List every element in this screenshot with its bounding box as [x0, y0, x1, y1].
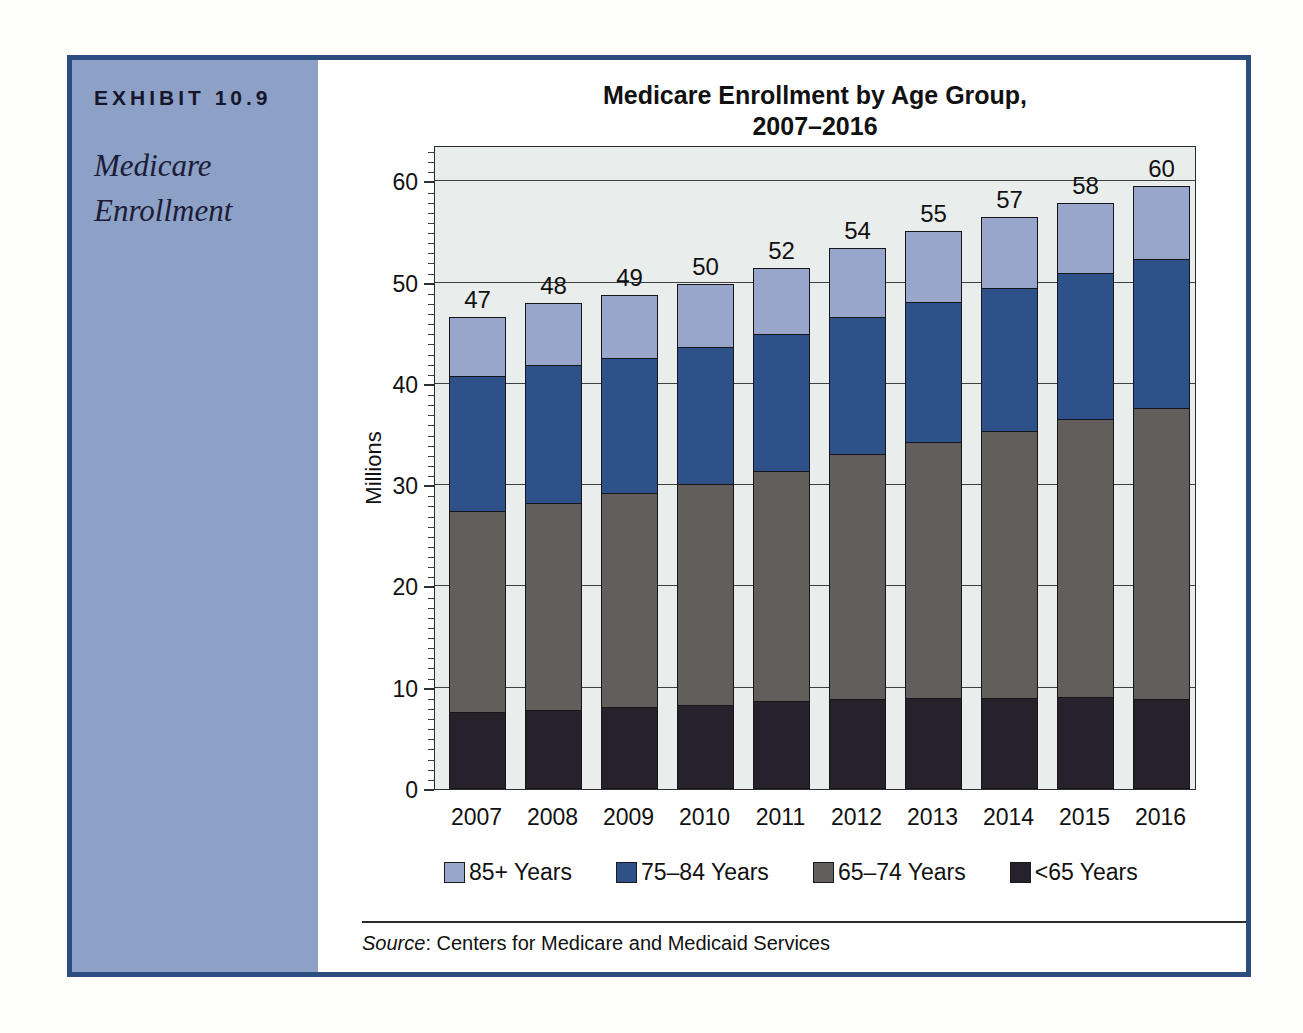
- chart-title: Medicare Enrollment by Age Group, 2007–2…: [434, 80, 1196, 141]
- x-tick-label: 2007: [437, 804, 517, 831]
- legend-item: 85+ Years: [444, 859, 572, 886]
- bar-segment: [982, 288, 1037, 431]
- exhibit-box: EXHIBIT 10.9 Medicare Enrollment Medicar…: [67, 55, 1251, 977]
- bar-segment: [526, 304, 581, 366]
- bar-segment: [1058, 273, 1113, 418]
- bar-total-label: 50: [666, 253, 746, 281]
- bar-segment: [450, 511, 505, 713]
- bar-segment: [830, 454, 885, 699]
- bar-segment: [1134, 259, 1189, 407]
- stacked-bar: [829, 248, 886, 789]
- legend-swatch: [813, 862, 834, 883]
- bar-segment: [1134, 408, 1189, 700]
- legend-swatch: [1010, 862, 1031, 883]
- bar-segment: [906, 232, 961, 302]
- chart-title-line1: Medicare Enrollment by Age Group,: [434, 80, 1196, 111]
- y-tick-label: 20: [358, 575, 418, 599]
- x-tick-label: 2015: [1045, 804, 1125, 831]
- legend-item: <65 Years: [1010, 859, 1138, 886]
- x-tick-label: 2016: [1121, 804, 1201, 831]
- x-axis-labels: 2007200820092010201120122013201420152016: [434, 804, 1196, 834]
- x-tick-label: 2009: [589, 804, 669, 831]
- y-major-tick: [424, 789, 434, 791]
- legend-label: 65–74 Years: [838, 859, 966, 886]
- bar-segment: [1058, 204, 1113, 274]
- plot-area: 47484950525455575860: [434, 146, 1196, 790]
- bar-segment: [678, 347, 733, 484]
- stacked-bar: [1057, 203, 1114, 789]
- bar-segment: [450, 318, 505, 375]
- y-major-tick: [424, 283, 434, 285]
- stacked-bar: [1133, 186, 1190, 789]
- bar-total-label: 49: [590, 264, 670, 292]
- source-line: Source: Centers for Medicare and Medicai…: [362, 932, 830, 955]
- x-tick-label: 2011: [741, 804, 821, 831]
- x-tick-label: 2014: [969, 804, 1049, 831]
- bar-total-label: 55: [894, 200, 974, 228]
- bar-segment: [830, 249, 885, 317]
- legend-item: 75–84 Years: [616, 859, 769, 886]
- stacked-bar: [677, 284, 734, 789]
- chart-title-line2: 2007–2016: [434, 111, 1196, 142]
- x-tick-label: 2010: [665, 804, 745, 831]
- bar-segment: [602, 358, 657, 492]
- bar-segment: [754, 701, 809, 788]
- y-tick-label: 60: [358, 170, 418, 194]
- bar-segment: [678, 285, 733, 348]
- bar-segment: [830, 699, 885, 788]
- bar-total-label: 52: [742, 237, 822, 265]
- y-major-tick: [424, 384, 434, 386]
- y-tick-label: 10: [358, 677, 418, 701]
- bar-total-label: 57: [970, 186, 1050, 214]
- bar-segment: [602, 707, 657, 788]
- bar-total-label: 58: [1046, 172, 1126, 200]
- bar-segment: [1058, 697, 1113, 788]
- bar-segment: [602, 493, 657, 708]
- bar-segment: [678, 705, 733, 788]
- bar-segment: [830, 317, 885, 454]
- y-tick-label: 0: [358, 778, 418, 802]
- bar-segment: [754, 471, 809, 701]
- bar-total-label: 48: [514, 272, 594, 300]
- y-major-tick: [424, 181, 434, 183]
- bar-segment: [450, 712, 505, 788]
- y-major-tick: [424, 485, 434, 487]
- x-tick-label: 2008: [513, 804, 593, 831]
- bar-segment: [678, 484, 733, 705]
- legend-item: 65–74 Years: [813, 859, 966, 886]
- bar-total-label: 47: [438, 286, 518, 314]
- stacked-bar: [753, 268, 810, 789]
- stacked-bar: [601, 295, 658, 789]
- exhibit-title-line1: Medicare: [94, 144, 300, 189]
- y-tick-label: 30: [358, 474, 418, 498]
- stacked-bar: [981, 217, 1038, 789]
- bar-segment: [526, 365, 581, 502]
- stacked-bar: [449, 317, 506, 789]
- bar-segment: [906, 302, 961, 442]
- bar-segment: [1058, 419, 1113, 698]
- legend-label: <65 Years: [1035, 859, 1138, 886]
- bar-segment: [1134, 699, 1189, 788]
- y-tick-label: 40: [358, 373, 418, 397]
- legend-label: 85+ Years: [469, 859, 572, 886]
- source-separator: [362, 921, 1246, 923]
- bar-segment: [754, 334, 809, 471]
- bar-segment: [754, 269, 809, 335]
- exhibit-title: Medicare Enrollment: [94, 144, 300, 234]
- legend-swatch: [616, 862, 637, 883]
- exhibit-sidebar: EXHIBIT 10.9 Medicare Enrollment: [72, 60, 318, 972]
- bar-segment: [982, 698, 1037, 788]
- y-major-tick: [424, 586, 434, 588]
- y-major-tick: [424, 688, 434, 690]
- x-tick-label: 2012: [817, 804, 897, 831]
- legend-label: 75–84 Years: [641, 859, 769, 886]
- bar-total-label: 60: [1122, 155, 1202, 183]
- source-text: : Centers for Medicare and Medicaid Serv…: [425, 932, 830, 954]
- y-tick-label: 50: [358, 272, 418, 296]
- bar-segment: [602, 296, 657, 359]
- stacked-bar: [525, 303, 582, 789]
- legend: 85+ Years75–84 Years65–74 Years<65 Years: [444, 859, 1196, 886]
- bar-segment: [906, 442, 961, 698]
- y-axis: 0102030405060: [352, 146, 434, 790]
- exhibit-number: EXHIBIT 10.9: [94, 86, 300, 110]
